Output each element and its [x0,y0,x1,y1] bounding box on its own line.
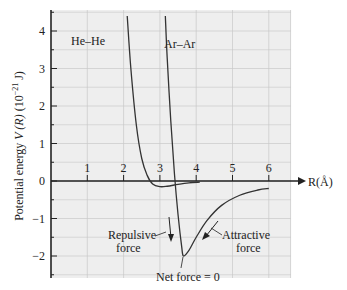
he-he-label: He–He [71,34,105,48]
ylabel-exp: −21 [11,83,20,96]
ylabel-unit-open: (10 [12,95,26,114]
x-axis-label: R(Å) [308,175,333,189]
x-tick-label: 4 [193,161,199,175]
x-tick-label: 1 [84,161,90,175]
y-tick-label: 1 [39,137,45,151]
net-force-label: Net force = 0 [156,270,220,284]
ylabel-main: Potential energy [12,140,26,221]
y-tick-label: −2 [32,249,45,263]
y-tick-label: −1 [32,212,45,226]
ylabel-var: V (R) [12,114,26,139]
y-tick-label: 4 [39,24,45,38]
repulsive-label-line1: Repulsive [108,228,156,242]
y-tick-label: 2 [39,99,45,113]
x-axis-arrow-icon [298,177,306,185]
ylabel-unit-close: J) [12,71,26,83]
y-tick-label: 0 [39,174,45,188]
attractive-label-line2: force [236,241,261,255]
y-tick-label: 3 [39,62,45,76]
x-tick-label: 3 [157,161,163,175]
attractive-label-line1: Attractive [222,228,270,242]
x-tick-label: 2 [121,161,127,175]
svg-text:Potential energy V (R) (10−21: Potential energy V (R) (10−21 J) [11,71,26,221]
y-axis-label: Potential energy V (R) (10−21 J) [11,71,26,221]
repulsive-label-line2: force [116,241,141,255]
x-tick-label: 6 [266,161,272,175]
potential-energy-chart: 123456−2−101234 He–He Ar–Ar R(Å) Repulsi… [0,0,347,290]
ar-ar-label: Ar–Ar [164,37,195,51]
x-tick-label: 5 [230,161,236,175]
